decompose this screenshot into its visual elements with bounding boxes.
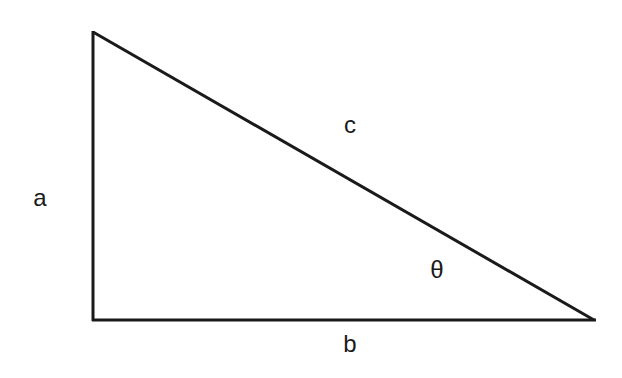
right-triangle-diagram [0, 0, 622, 378]
label-side-c: c [344, 113, 356, 137]
label-side-b: b [343, 332, 356, 356]
label-side-a: a [33, 186, 46, 210]
label-angle-theta: θ [430, 258, 443, 282]
side-c-hypotenuse [93, 32, 594, 320]
